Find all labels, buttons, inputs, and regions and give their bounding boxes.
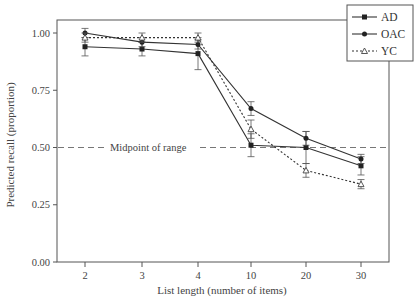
x-tick-label: 10	[246, 270, 257, 281]
legend-label: YC	[381, 45, 397, 57]
y-axis-ticks: 0.000.250.500.751.00	[32, 28, 57, 268]
triangle-marker	[248, 126, 254, 131]
circle-marker	[196, 42, 201, 47]
x-tick-label: 30	[356, 270, 367, 281]
x-tick-label: 3	[139, 270, 144, 281]
x-axis-title: List length (number of items)	[157, 284, 287, 297]
triangle-marker	[358, 181, 364, 187]
series-line	[85, 38, 361, 185]
x-tick-label: 2	[82, 270, 87, 281]
y-axis-title: Predicted recall (proportion)	[4, 82, 17, 208]
square-marker	[196, 51, 201, 56]
circle-marker	[249, 106, 254, 111]
square-marker	[140, 47, 145, 52]
y-tick-label: 0.25	[32, 199, 50, 210]
y-tick-label: 1.00	[32, 28, 50, 39]
y-tick-label: 0.75	[32, 85, 50, 96]
legend: ADOACYC	[347, 5, 413, 61]
series-group	[82, 28, 365, 188]
x-tick-label: 4	[195, 270, 201, 281]
square-marker	[362, 15, 367, 20]
midpoint-label: Midpoint of range	[110, 142, 187, 153]
legend-label: AD	[381, 11, 398, 23]
legend-label: OAC	[381, 28, 406, 40]
x-axis-ticks: 234102030	[82, 262, 366, 281]
series-yc	[82, 33, 365, 189]
square-marker	[249, 143, 254, 148]
circle-marker	[362, 32, 367, 37]
circle-marker	[304, 136, 309, 141]
plot-area	[57, 20, 389, 262]
line-chart: Midpoint of range 0.000.250.500.751.00 2…	[0, 0, 419, 306]
square-marker	[304, 145, 309, 150]
square-marker	[83, 44, 88, 49]
square-marker	[359, 163, 364, 168]
y-tick-label: 0.00	[32, 257, 50, 268]
circle-marker	[359, 156, 364, 161]
x-tick-label: 20	[301, 270, 312, 281]
y-tick-label: 0.50	[32, 142, 50, 153]
series-ad	[82, 38, 365, 175]
